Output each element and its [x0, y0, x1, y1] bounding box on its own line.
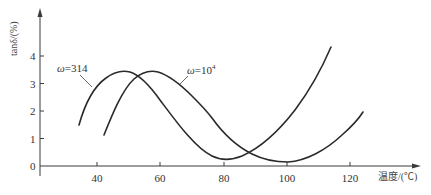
x-tick-label: 40: [92, 172, 104, 184]
annotation-omega-314: ω=314: [57, 62, 88, 74]
y-tick-label: 4: [30, 50, 36, 62]
curve-omega-10-4: [104, 71, 363, 162]
annotation-leader: [180, 76, 188, 84]
x-ticks: [97, 162, 350, 166]
x-tick-label: 120: [342, 172, 359, 184]
y-tick-label: 2: [30, 105, 36, 117]
y-axis-arrow-icon: [38, 8, 43, 17]
x-tick-label: 100: [279, 172, 296, 184]
x-axis-arrow-icon: [412, 164, 421, 169]
x-axis-label: 温度/(℃): [378, 170, 417, 183]
annotation-leader: [80, 75, 92, 87]
chart: 4 3 2 1 0 40 60 80 100 120 温度/(℃) tanδ/(…: [0, 0, 431, 195]
y-tick-label: 1: [30, 133, 36, 145]
x-tick-label: 60: [155, 172, 167, 184]
x-tick-label: 80: [219, 172, 231, 184]
y-axis-label: tanδ/(%): [8, 21, 20, 56]
y-tick-label: 0: [30, 160, 36, 172]
y-ticks: [40, 56, 44, 139]
annotation-omega-10-4: ω=104: [187, 63, 216, 76]
y-tick-label: 3: [30, 78, 36, 90]
